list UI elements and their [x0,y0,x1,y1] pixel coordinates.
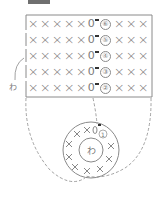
sc-stitch: × [51,32,63,48]
sc-stitch: × [75,32,87,48]
sc-stitch: × [137,48,149,64]
sc-stitch: × [63,64,75,80]
sc-stitch: × [75,16,87,32]
sc-stitch: × [63,80,75,96]
sc-stitch: × [137,80,149,96]
row-number: ③ [100,67,111,78]
sc-stitch: × [125,80,137,96]
sc-stitch: × [27,48,39,64]
ring-center-label: わ [87,144,96,157]
row-number: ⑤ [100,35,111,46]
chain-stitch: 0 [87,64,95,80]
sc-stitch: × [27,64,39,80]
sc-stitch: × [113,64,125,80]
sc-stitch: × [27,32,39,48]
row-marker-icon [95,35,99,37]
sc-stitch: × [51,64,63,80]
sc-stitch: × [51,16,63,32]
sc-stitch: × [125,64,137,80]
row-number: ⑥ [100,19,111,30]
sc-stitch: × [39,48,51,64]
sc-stitch: × [113,16,125,32]
sc-stitch: × [137,32,149,48]
row-3: × × × × × 0 ③ × × × [27,64,149,80]
sc-stitch: × [125,48,137,64]
sc-stitch: × [125,16,137,32]
row-marker-icon [95,67,99,69]
sc-stitch: × [137,16,149,32]
row-5: × × × × × 0 ⑤ × × × [27,32,149,48]
sc-stitch: × [27,16,39,32]
row-marker-icon [95,19,99,21]
sc-stitch: × [63,32,75,48]
sc-stitch: × [51,48,63,64]
sc-stitch: × [51,80,63,96]
sc-stitch: × [39,16,51,32]
sc-stitch: × [113,32,125,48]
round-number-text: 1 [101,131,105,138]
sc-stitch: × [39,32,51,48]
ring-chain-stitch [93,127,97,134]
dashed-left-curve [26,98,85,182]
sc-stitch: × [63,48,75,64]
sc-stitch: × [39,80,51,96]
row-number: ④ [100,51,111,62]
sc-stitch: × [75,48,87,64]
row-marker-icon [95,51,99,53]
sc-stitch: × [27,80,39,96]
chain-stitch: 0 [87,16,95,32]
chain-stitch: 0 [87,48,95,64]
ring-marker [98,124,101,126]
side-arrow-curve [15,58,24,80]
row-number: ② [100,83,111,94]
chain-stitch: 0 [87,80,95,96]
sc-stitch: × [75,80,87,96]
sc-stitch: × [113,48,125,64]
chain-stitch: 0 [87,32,95,48]
dashed-center-line [93,98,97,124]
side-ring-label: わ [9,81,17,92]
sc-stitch: × [39,64,51,80]
sc-stitch: × [75,64,87,80]
sc-stitch: × [113,80,125,96]
sc-stitch: × [63,16,75,32]
row-4: × × × × × 0 ④ × × × [27,48,149,64]
row-2: × × × × × 0 ② × × × [27,80,149,96]
sc-stitch: × [137,64,149,80]
row-6: × × × × × 0 ⑥ × × × [27,16,149,32]
row-marker-icon [95,83,99,85]
sc-stitch: × [125,32,137,48]
